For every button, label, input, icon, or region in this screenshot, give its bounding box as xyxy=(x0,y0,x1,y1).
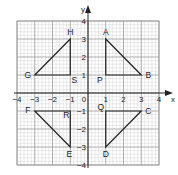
x-tick-label: −4 xyxy=(12,95,22,104)
y-tick-label: −4 xyxy=(77,161,87,170)
y-axis-arrow-icon xyxy=(85,5,91,13)
y-tick-label: 1 xyxy=(82,71,87,80)
labels: xy−4−3−2−1012344321−1−2−3−4ABPHGSFERQCD xyxy=(12,5,175,170)
vertex-label-b: B xyxy=(145,70,151,80)
vertex-label-g: G xyxy=(24,70,31,80)
grid-svg: xy−4−3−2−1012344321−1−2−3−4ABPHGSFERQCD xyxy=(0,0,178,175)
y-axis-label: y xyxy=(81,5,85,14)
y-tick-label: 3 xyxy=(82,35,87,44)
vertex-label-s: S xyxy=(71,75,77,85)
y-tick-label: −3 xyxy=(77,143,87,152)
vertex-label-h: H xyxy=(67,27,73,37)
y-tick-label: 2 xyxy=(82,53,87,62)
y-tick-label: −2 xyxy=(77,125,87,134)
vertex-label-c: C xyxy=(145,106,151,116)
x-tick-label: −1 xyxy=(66,95,76,104)
vertex-label-r: R xyxy=(63,110,69,120)
vertex-label-d: D xyxy=(103,149,109,159)
y-tick-label: 4 xyxy=(82,17,87,26)
vertex-label-e: E xyxy=(66,149,72,159)
x-axis-label: x xyxy=(171,95,175,104)
origin-label: 0 xyxy=(82,95,87,104)
y-tick-label: −1 xyxy=(77,107,87,116)
x-tick-label: 3 xyxy=(139,95,144,104)
x-tick-label: 4 xyxy=(157,95,162,104)
vertex-label-q: Q xyxy=(97,102,104,112)
vertex-label-f: F xyxy=(25,105,30,115)
x-tick-label: 2 xyxy=(121,95,126,104)
vertex-label-p: P xyxy=(97,75,103,85)
x-tick-label: −3 xyxy=(30,95,40,104)
x-tick-label: 1 xyxy=(104,95,109,104)
vertex-label-a: A xyxy=(103,27,109,37)
coordinate-grid-diagram: xy−4−3−2−1012344321−1−2−3−4ABPHGSFERQCD xyxy=(0,0,178,175)
x-tick-label: −2 xyxy=(48,95,58,104)
